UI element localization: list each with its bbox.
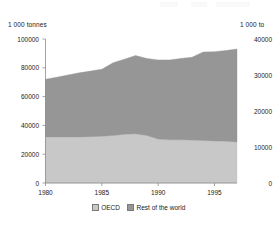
y2-tick-label-40000: 40000 — [240, 36, 272, 43]
x-tick-label-1995: 1995 — [197, 189, 231, 196]
area-series-layer — [46, 49, 238, 183]
y-tick-label-60000: 60000 — [3, 93, 39, 100]
legend-item-rest-of-the-world[interactable]: Rest of the world — [127, 204, 185, 211]
y-tick-label-0: 0 — [3, 180, 39, 187]
x-tick-label-1990: 1990 — [141, 189, 175, 196]
chart-container: 1 000 tonnes 1 000 to 020000400006000080… — [0, 0, 277, 227]
legend-swatch-icon — [92, 204, 99, 211]
y2-tick-label-10000: 10000 — [240, 144, 272, 151]
y2-tick-label-20000: 20000 — [240, 108, 272, 115]
area-series-oecd — [46, 134, 238, 183]
y2-tick-label-0: 0 — [240, 180, 272, 187]
legend-swatch-icon — [127, 204, 134, 211]
x-tick-label-1985: 1985 — [85, 189, 119, 196]
y-tick-label-80000: 80000 — [3, 64, 39, 71]
y-tick-label-20000: 20000 — [3, 151, 39, 158]
y-tick-label-40000: 40000 — [3, 122, 39, 129]
legend-item-oecd[interactable]: OECD — [92, 204, 120, 211]
legend-label: Rest of the world — [137, 204, 186, 211]
y2-tick-label-30000: 30000 — [240, 72, 272, 79]
chart-legend: OECDRest of the world — [0, 204, 277, 211]
area-series-rest-of-the-world — [46, 49, 238, 142]
x-tick-label-1980: 1980 — [29, 189, 63, 196]
y-tick-label-100000: 100000 — [3, 36, 39, 43]
legend-label: OECD — [101, 204, 120, 211]
